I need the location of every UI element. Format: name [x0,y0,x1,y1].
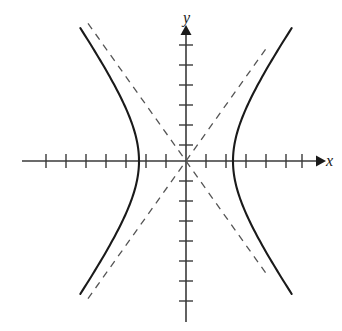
y-axis [179,25,193,322]
y-axis-label: y [183,10,190,26]
hyperbola-figure: x y [0,0,342,331]
x-axis-label: x [326,153,333,169]
y-axis-arrowhead-icon [181,25,192,35]
x-axis-arrowhead-icon [316,156,326,167]
hyperbola-plot-svg [0,0,342,331]
x-axis [22,154,326,168]
